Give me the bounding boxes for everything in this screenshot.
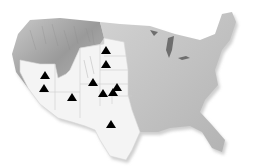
triangle-marker-icon [101,60,111,68]
triangle-marker-icon [39,84,49,92]
triangle-marker-icon [88,78,98,86]
triangle-marker-icon [106,120,116,128]
triangle-marker-icon [101,46,111,54]
triangle-marker-icon [67,93,77,101]
triangle-marker-icon [98,89,108,97]
triangle-marker-icon [112,83,122,91]
triangle-marker-icon [40,71,50,79]
